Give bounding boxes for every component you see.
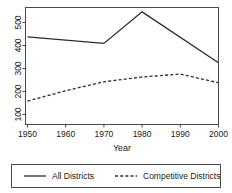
chart-figure: 100 200 300 400 500 1950 1960 1970 1980 … [0, 0, 232, 193]
y-tick-300: 300 [13, 61, 23, 75]
x-tick-1980: 1980 [133, 129, 152, 139]
x-tick-1970: 1970 [94, 129, 113, 139]
x-tick-2000: 2000 [209, 129, 228, 139]
x-tick-1960: 1960 [56, 129, 75, 139]
plot-frame [26, 8, 219, 125]
legend-label-competitive-districts: Competitive Districts [143, 171, 220, 181]
chart-legend: All Districts Competitive Districts [12, 165, 221, 188]
x-tick-1990: 1990 [171, 129, 190, 139]
y-tick-400: 400 [13, 38, 23, 52]
series-all-districts [28, 12, 219, 63]
y-tick-200: 200 [13, 84, 23, 98]
legend-label-all-districts: All Districts [52, 171, 94, 181]
x-tick-1950: 1950 [18, 129, 37, 139]
y-tick-500: 500 [13, 15, 23, 29]
x-axis-tick-labels: 1950 1960 1970 1980 1990 2000 [18, 129, 228, 139]
y-tick-100: 100 [13, 107, 23, 121]
series-competitive-districts [28, 74, 219, 101]
y-axis-tick-labels: 100 200 300 400 500 [13, 15, 23, 121]
line-chart: 100 200 300 400 500 1950 1960 1970 1980 … [0, 0, 232, 193]
x-axis-title: Year [113, 143, 131, 153]
